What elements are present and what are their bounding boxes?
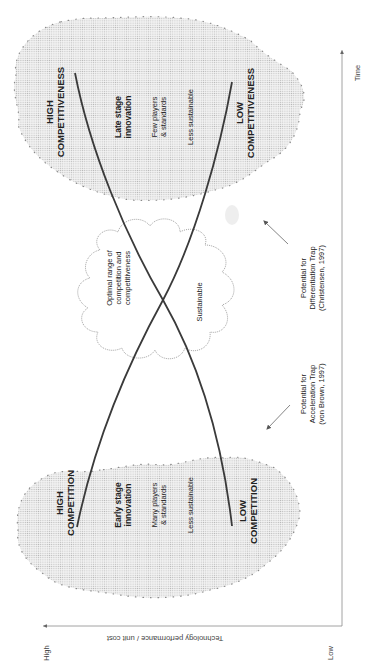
differentiation-arrow: [265, 222, 288, 244]
low-competition-label-1: LOW: [237, 500, 248, 522]
y-high-label: High: [42, 645, 51, 660]
late-stage-title-1: Late stage: [113, 96, 123, 138]
differentiation-trap-3: (Christensen, 1997): [317, 245, 326, 311]
early-stage-title-2: innovation: [123, 484, 133, 527]
low-competitiveness-label-1: LOW: [234, 102, 245, 124]
optimal-range-1: Optimal range of: [105, 249, 114, 305]
y-axis-title: Technology performance / unit cost: [106, 634, 223, 643]
acceleration-trap-1: Potential for: [299, 373, 308, 414]
high-competitiveness-label-2: COMPETITIVENESS: [55, 67, 66, 157]
low-competition-label-2: COMPETITION: [248, 478, 259, 544]
differentiation-trap-1: Potential for: [299, 257, 308, 298]
differentiation-trap-2: Differentiation Trap: [308, 246, 317, 309]
acceleration-trap-2: Acceleration Trap: [308, 365, 317, 423]
many-players-2: & standards: [159, 485, 168, 525]
many-players-1: Many players: [150, 482, 159, 527]
acceleration-trap-3: (von Brown, 1997): [317, 363, 326, 425]
optimal-range-3: competitiveness: [123, 251, 132, 305]
few-players-1: Few players: [150, 97, 159, 138]
sustainable-label: Sustainable: [195, 282, 204, 321]
early-stage-title-1: Early stage: [113, 482, 123, 528]
high-competition-label-2: COMPETITION: [65, 470, 76, 536]
high-competition-label-1: HIGH: [54, 491, 65, 515]
early-less-sustainable: Less sustainable: [186, 477, 195, 533]
faint-blob: [225, 205, 239, 225]
acceleration-arrow: [268, 405, 290, 428]
few-players-2: & standards: [159, 97, 168, 137]
optimal-range-2: competition and: [114, 252, 123, 305]
y-low-label: Low: [326, 646, 335, 660]
late-less-sustainable: Less sustainable: [186, 89, 195, 145]
competition-competitiveness-diagram: HIGH COMPETITIVENESS Late stage innovati…: [0, 0, 367, 671]
time-axis-title: Time: [353, 65, 362, 81]
high-competitiveness-label-1: HIGH: [44, 100, 55, 124]
low-competitiveness-label-2: COMPETITIVENESS: [245, 68, 256, 158]
late-stage-title-2: innovation: [123, 96, 133, 139]
